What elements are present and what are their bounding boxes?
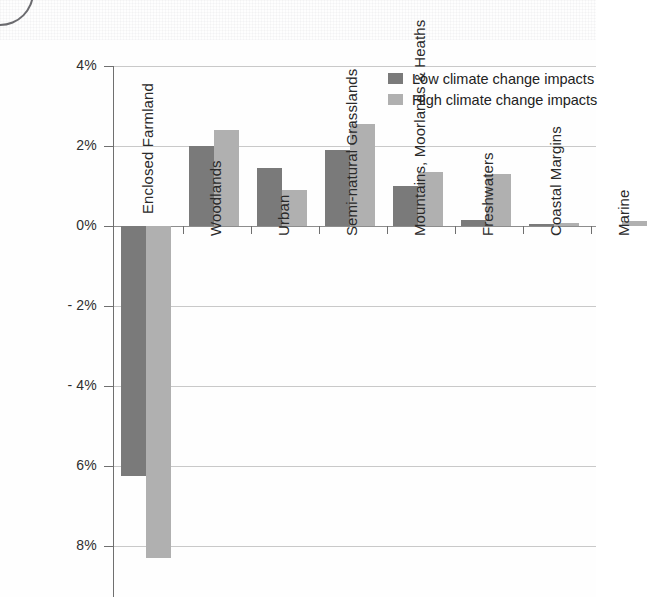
- y-axis-label: - 2%: [18, 297, 97, 313]
- y-axis-tick: [104, 306, 113, 307]
- legend-label-low: Low climate change impacts: [412, 71, 594, 87]
- bar-low: [121, 226, 146, 476]
- gridline: [113, 466, 596, 467]
- y-axis-label: - 4%: [18, 377, 97, 393]
- gridline: [113, 66, 596, 67]
- x-axis-tick: [319, 226, 320, 234]
- legend-item-low: Low climate change impacts: [388, 68, 597, 89]
- y-axis-line: [113, 66, 114, 597]
- bar-high: [146, 226, 171, 558]
- y-axis-tick: [104, 466, 113, 467]
- legend-swatch-low-icon: [388, 73, 403, 84]
- y-axis-tick: [104, 146, 113, 147]
- x-axis-tick: [591, 226, 592, 234]
- x-axis-category-label: Marine: [615, 190, 632, 236]
- y-axis-label: 6%: [18, 457, 97, 473]
- x-axis-tick: [251, 226, 252, 234]
- y-axis-label: 8%: [18, 537, 97, 553]
- legend-swatch-high-icon: [388, 94, 403, 105]
- x-axis-category-label: Mountains, Moorlands & Heaths: [411, 20, 428, 236]
- x-axis-category-label: Semi-natural Grasslands: [343, 69, 360, 236]
- x-axis-tick: [387, 226, 388, 234]
- y-axis-label: 0%: [18, 217, 97, 233]
- x-axis-category-label: Urban: [275, 195, 292, 236]
- chart-legend: Low climate change impacts High climate …: [388, 68, 597, 110]
- x-axis-tick: [523, 226, 524, 234]
- gridline: [113, 306, 596, 307]
- legend-label-high: High climate change impacts: [412, 92, 597, 108]
- x-axis-category-label: Woodlands: [207, 160, 224, 236]
- x-axis-category-label: Freshwaters: [479, 152, 496, 236]
- gridline: [113, 386, 596, 387]
- x-axis-tick: [183, 226, 184, 234]
- y-axis-tick: [104, 546, 113, 547]
- x-axis-category-label: Coastal Margins: [547, 126, 564, 236]
- x-axis-category-label: Enclosed Farmland: [139, 83, 156, 214]
- y-axis-tick: [104, 386, 113, 387]
- y-axis-label: 2%: [18, 137, 97, 153]
- y-axis-label: 4%: [18, 57, 97, 73]
- gridline: [113, 546, 596, 547]
- x-axis-tick: [455, 226, 456, 234]
- legend-item-high: High climate change impacts: [388, 89, 597, 110]
- y-axis-tick: [104, 226, 113, 227]
- y-axis-tick: [104, 66, 113, 67]
